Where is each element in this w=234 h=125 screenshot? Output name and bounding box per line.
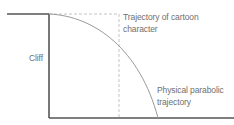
cartoon-trajectory-path bbox=[49, 14, 119, 118]
cartoon-trajectory-label-line1: Trajectory of cartoon bbox=[123, 12, 199, 23]
physical-trajectory-label-line2: trajectory bbox=[157, 97, 191, 108]
cartoon-trajectory-label-line2: character bbox=[123, 24, 158, 35]
cliff-label: Cliff bbox=[29, 53, 43, 64]
physical-trajectory-label-line1: Physical parabolic bbox=[157, 85, 224, 96]
